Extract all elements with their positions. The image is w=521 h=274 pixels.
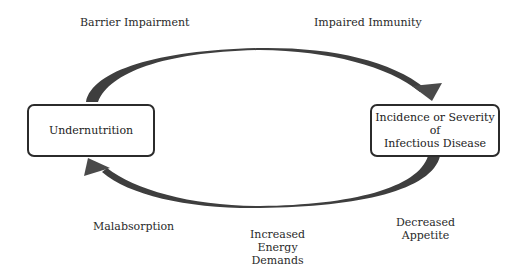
node-undernutrition-label: Undernutrition [49,124,133,137]
node-undernutrition: Undernutrition [27,104,155,157]
node-infectious-disease: Incidence or Severity of Infectious Dise… [370,104,500,157]
label-impaired-immunity: Impaired Immunity [314,16,422,29]
label-malabsorption: Malabsorption [93,220,174,233]
diagram-canvas: Barrier Impairment Impaired Immunity Und… [0,0,521,274]
node-infectious-disease-label: Incidence or Severity of Infectious Dise… [372,111,498,150]
label-barrier-impairment: Barrier Impairment [80,16,190,29]
label-increased-energy-demands: Increased Energy Demands [250,228,305,267]
arrow-top-icon [86,48,442,102]
arrow-bottom-icon [84,156,440,208]
label-decreased-appetite: Decreased Appetite [396,216,455,242]
